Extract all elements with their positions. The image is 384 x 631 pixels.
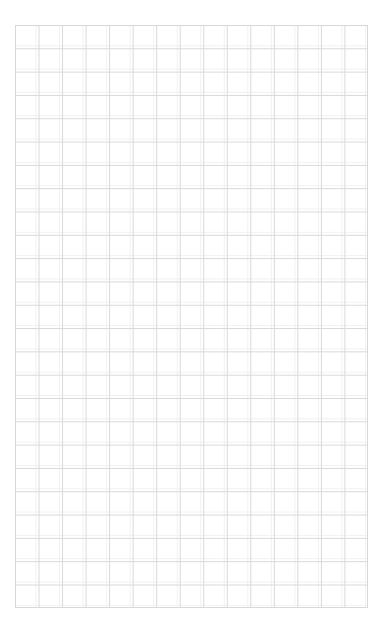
page-canvas <box>0 0 384 631</box>
left-margin <box>0 0 15 631</box>
grid-border <box>15 25 368 608</box>
graph-paper-grid <box>15 25 368 608</box>
grid-lines <box>15 25 368 608</box>
top-margin <box>0 0 384 25</box>
bottom-margin <box>0 608 384 631</box>
grid-ghost-lines <box>15 25 368 608</box>
right-margin <box>368 0 384 631</box>
